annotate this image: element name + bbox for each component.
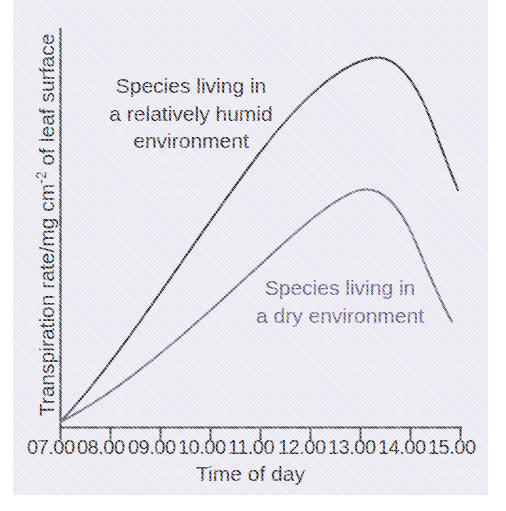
x-tick-label-8: 15.00 [428,436,476,459]
x-tick-label-5: 12.00 [278,436,326,459]
chart-figure: 07.00 08.00 09.00 10.00 11.00 12.00 13.0… [13,0,488,495]
x-tick-label-1: 08.00 [77,436,125,459]
annotation-dry-species: Species living in a dry environment [231,274,449,329]
x-tick-label-4: 11.00 [228,436,274,459]
y-axis-title: Transpiration rate/mg cm-2 of leaf surfa… [33,15,59,435]
y-axis-title-suffix: of leaf surface [35,34,58,172]
y-axis-title-prefix: Transpiration rate/mg cm [35,184,58,417]
annotation-humid-species: Species living in a relatively humid env… [73,72,309,155]
x-tick-label-2: 09.00 [128,436,176,459]
y-axis-title-superscript: -2 [33,171,49,183]
x-tick-label-6: 13.00 [328,436,376,459]
x-tick-label-0: 07.00 [27,436,75,459]
x-axis-title: Time of day [13,462,488,486]
x-tick-label-3: 10.00 [178,436,226,459]
x-tick-label-7: 14.00 [378,436,426,459]
